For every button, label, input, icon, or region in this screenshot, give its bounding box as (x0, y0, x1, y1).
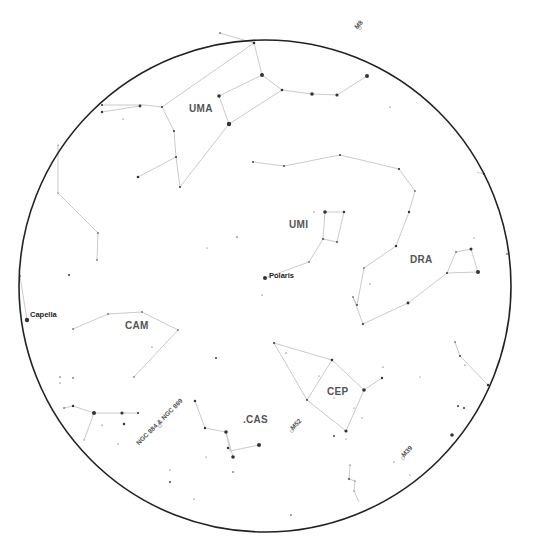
star (161, 106, 163, 108)
star (97, 232, 99, 234)
constellation-label-cam: CAM (125, 321, 149, 331)
star (454, 341, 456, 343)
star (123, 423, 125, 425)
star (354, 480, 355, 481)
star (215, 357, 217, 359)
constellation-line (253, 155, 478, 324)
star (107, 313, 109, 315)
star (353, 490, 354, 491)
star (281, 89, 284, 92)
star (336, 241, 338, 243)
star (219, 32, 221, 34)
star (354, 408, 355, 409)
star (356, 304, 358, 306)
star (137, 176, 140, 179)
star (122, 118, 123, 119)
star (348, 478, 350, 480)
star (343, 211, 345, 213)
star (59, 382, 60, 383)
star (420, 377, 421, 378)
star (101, 104, 103, 106)
star (193, 498, 194, 499)
star (207, 248, 208, 249)
star (395, 245, 397, 247)
star (59, 376, 60, 377)
star (410, 475, 411, 476)
star (227, 122, 231, 126)
star (506, 253, 508, 255)
constellation-line (195, 401, 259, 451)
star (63, 407, 65, 409)
star (227, 447, 229, 449)
star (173, 130, 175, 132)
star (217, 94, 221, 98)
star (389, 106, 390, 107)
star (476, 270, 480, 274)
star (464, 364, 465, 365)
star (306, 399, 308, 401)
star (455, 251, 457, 253)
constellation-line (102, 43, 254, 107)
constellation-line (323, 212, 344, 242)
constellation-line (176, 124, 229, 187)
star (25, 318, 29, 322)
star (335, 93, 338, 96)
star (313, 211, 314, 212)
horizon-circle (19, 40, 511, 532)
star (450, 433, 454, 437)
star (101, 424, 102, 425)
star (365, 74, 369, 78)
star (363, 267, 365, 269)
star (57, 192, 58, 193)
star (331, 359, 334, 362)
star (139, 105, 142, 108)
star (362, 418, 363, 419)
star (169, 481, 171, 483)
star (204, 427, 206, 429)
star (352, 296, 354, 298)
star (459, 355, 461, 357)
star (96, 259, 98, 261)
star (344, 429, 347, 432)
star (253, 42, 256, 45)
star (290, 514, 292, 516)
star (177, 329, 179, 331)
star (72, 377, 74, 379)
constellation-line (84, 413, 94, 440)
constellation-line (364, 378, 382, 390)
star (285, 352, 286, 353)
star (349, 464, 350, 465)
star (474, 238, 475, 239)
star (179, 186, 181, 188)
star (414, 190, 416, 192)
constellation-line (219, 33, 282, 124)
star (346, 439, 347, 440)
star (252, 161, 254, 163)
star (334, 398, 335, 399)
star (137, 412, 139, 414)
star (257, 443, 261, 447)
star (236, 236, 237, 237)
deep-sky-object-markers (159, 27, 405, 460)
constellation-label-dra: DRA (410, 255, 433, 265)
constellation-line (102, 106, 140, 112)
star (333, 435, 335, 437)
star (194, 400, 196, 402)
star (72, 328, 74, 330)
star (84, 440, 85, 441)
star (446, 272, 448, 274)
star (308, 261, 310, 263)
star (101, 111, 103, 113)
star (487, 384, 489, 386)
star (57, 144, 58, 145)
star (339, 154, 341, 156)
constellation-label-uma: UMA (189, 104, 213, 114)
star (362, 388, 366, 392)
star (175, 156, 177, 158)
star (369, 283, 370, 284)
star (407, 302, 410, 305)
constellation-line (349, 465, 359, 502)
star (261, 294, 262, 295)
star (141, 311, 143, 313)
constellation-line (138, 107, 176, 177)
